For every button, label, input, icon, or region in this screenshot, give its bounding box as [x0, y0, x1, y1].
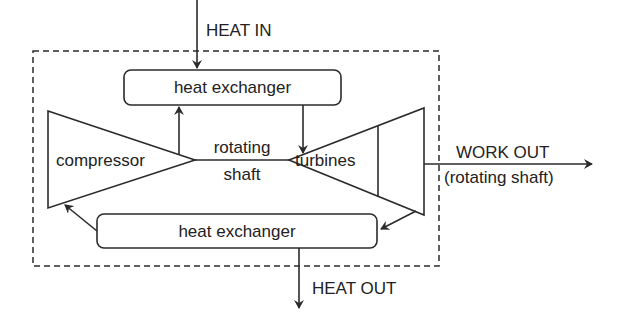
bottom-heat-exchanger: heat exchanger [97, 214, 377, 248]
compressor-label: compressor [56, 151, 145, 170]
heat-in-label: HEAT IN [206, 21, 272, 40]
compressor: compressor [48, 111, 195, 208]
bottom-heat-exchanger-label: heat exchanger [178, 222, 296, 241]
rotating-shaft: rotating shaft [195, 138, 289, 184]
heat-out-label: HEAT OUT [312, 279, 396, 298]
cooler-to-compressor-arrow [65, 205, 97, 231]
shaft-label-line2: shaft [224, 165, 261, 184]
work-out-sublabel: (rotating shaft) [444, 168, 554, 187]
top-heat-exchanger-label: heat exchanger [174, 78, 292, 97]
top-heat-exchanger: heat exchanger [124, 70, 341, 105]
turbines: turbines [289, 108, 424, 215]
work-out-label: WORK OUT [456, 143, 550, 162]
turbines-label: turbines [295, 151, 355, 170]
shaft-label-line1: rotating [214, 138, 271, 157]
turbine-to-cooler-arrow [381, 211, 416, 229]
gas-turbine-diagram: HEAT IN heat exchanger compressor rotati… [0, 0, 623, 328]
